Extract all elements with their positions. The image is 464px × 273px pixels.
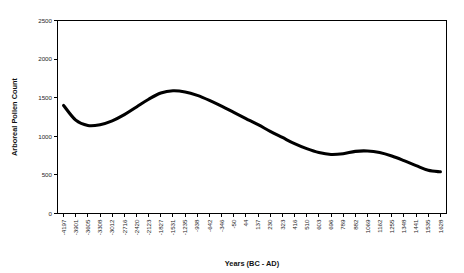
x-tick-label: 416: [291, 219, 298, 230]
x-tick-label: -346: [218, 219, 225, 232]
x-tick-label: 603: [315, 219, 322, 230]
x-tick-label: -3901: [72, 219, 79, 235]
x-tick-label: 230: [266, 219, 273, 230]
pollen-count-line-chart: 05001000150020002500 -4197-3901-3605-330…: [0, 0, 464, 273]
y-tick-label: 2500: [38, 17, 52, 24]
x-tick-label: 323: [279, 219, 286, 230]
x-tick-label: 1441: [412, 219, 419, 233]
x-tick-label: 1348: [400, 219, 407, 233]
x-tick-label: -2716: [121, 219, 128, 235]
x-tick-label: -642: [206, 219, 213, 232]
x-tick-label: 44: [242, 219, 249, 226]
x-tick-label: 1628: [437, 219, 444, 233]
x-tick-label: -1235: [181, 219, 188, 235]
x-tick-label: -938: [193, 219, 200, 232]
x-tick-label: 137: [254, 219, 261, 230]
x-tick-label: 696: [327, 219, 334, 230]
x-tick-label: -3012: [108, 219, 115, 235]
x-tick-label: 882: [352, 219, 359, 230]
x-tick-label: 789: [339, 219, 346, 230]
chart-container: 05001000150020002500 -4197-3901-3605-330…: [0, 0, 464, 273]
y-axis-title: Arboreal Pollen Count: [10, 77, 19, 156]
y-tick-label: 0: [49, 210, 53, 217]
y-tick-label: 500: [42, 171, 53, 178]
x-tick-label: 1535: [424, 219, 431, 233]
x-tick-label: -4197: [60, 219, 67, 235]
x-tick-label: 1162: [376, 219, 383, 233]
y-tick-label: 2000: [38, 55, 52, 62]
x-tick-label: -1827: [157, 219, 164, 235]
x-tick-label: -2420: [133, 219, 140, 235]
x-tick-label: 1069: [364, 219, 371, 233]
x-tick-label: -3308: [96, 219, 103, 235]
x-tick-label: -3605: [84, 219, 91, 235]
x-tick-label: -2123: [145, 219, 152, 235]
x-tick-label: 510: [303, 219, 310, 230]
y-tick-label: 1500: [38, 94, 52, 101]
x-tick-label: -1531: [169, 219, 176, 235]
y-tick-label: 1000: [38, 133, 52, 140]
x-tick-label: 1255: [388, 219, 395, 233]
x-tick-label: -50: [230, 219, 237, 229]
x-axis-title: Years (BC - AD): [225, 259, 280, 268]
